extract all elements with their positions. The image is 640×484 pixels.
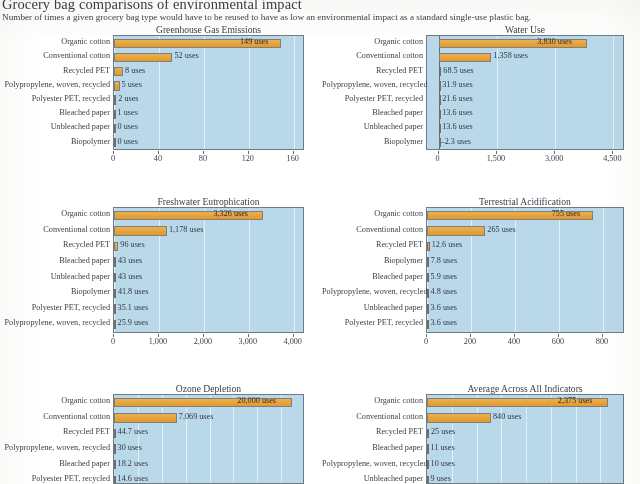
category-label: Bleached paper <box>2 460 110 468</box>
category-label: Bleached paper <box>322 444 423 452</box>
category-label: Polypropylene, woven, recycled <box>322 288 423 296</box>
bar-value-label: 68.5 uses <box>443 67 473 75</box>
bar-value-label: 52 uses <box>174 52 198 60</box>
bar-value-label: 755 uses <box>552 210 580 218</box>
category-label: Recycled PET <box>2 241 110 249</box>
gridline <box>294 208 295 332</box>
gridline <box>452 395 453 483</box>
plot-area <box>426 394 624 484</box>
category-label: Organic cotton <box>2 210 110 218</box>
bar <box>427 429 429 439</box>
page-subtitle: Number of times a given grocery bag type… <box>2 12 531 22</box>
axis-tick-label: 0 <box>111 337 115 346</box>
bar-value-label: 25 uses <box>431 428 455 436</box>
bar <box>114 304 116 314</box>
category-label: Conventional cotton <box>322 413 423 421</box>
bar <box>427 226 485 236</box>
axis-tick-label: 160 <box>287 154 299 163</box>
bar-value-label: 14.6 uses <box>118 475 148 483</box>
category-label: Unbleached paper <box>322 304 423 312</box>
gridline <box>204 208 205 332</box>
bar <box>114 95 116 105</box>
bar <box>114 110 116 120</box>
bar-value-label: 13.6 uses <box>442 109 472 117</box>
plot-area <box>113 35 304 150</box>
bar <box>114 257 116 267</box>
bar-value-label: 35.1 uses <box>118 304 148 312</box>
bar <box>427 304 429 314</box>
bar <box>439 67 442 77</box>
axis-tick-label: 400 <box>508 337 520 346</box>
gridline <box>600 395 601 483</box>
bar-value-label: 0 uses <box>118 123 138 131</box>
bar-value-label: 3.6 uses <box>431 304 457 312</box>
axis-tick-label: 40 <box>154 154 162 163</box>
axis-tick-label: 4,500 <box>603 154 621 163</box>
gridline <box>249 208 250 332</box>
bar-value-label: –2.3 uses <box>441 138 471 146</box>
bar-value-label: 43 uses <box>118 257 142 265</box>
bar-value-label: 8 uses <box>125 67 145 75</box>
bar <box>114 138 116 148</box>
plot-area <box>113 207 304 333</box>
axis-tick-label: 0 <box>436 154 440 163</box>
bar-value-label: 9 uses <box>431 475 451 483</box>
gridline <box>526 395 527 483</box>
bar-value-label: 265 uses <box>487 226 515 234</box>
category-label: Polyester PET, recycled <box>2 475 110 483</box>
bar-value-label: 3.6 uses <box>431 319 457 327</box>
bar <box>114 429 116 439</box>
chart-title: Terrestrial Acidification <box>366 196 640 207</box>
bar <box>114 460 116 470</box>
gridline <box>294 36 295 149</box>
category-label: Conventional cotton <box>2 413 110 421</box>
axis-tick-label: 600 <box>552 337 564 346</box>
category-label: Recycled PET <box>322 241 423 249</box>
category-label: Polypropylene, woven, recycled <box>2 444 110 452</box>
category-label: Organic cotton <box>2 38 110 46</box>
bar-value-label: 1 uses <box>118 109 138 117</box>
category-label: Conventional cotton <box>322 226 423 234</box>
gridline <box>576 395 577 483</box>
bar <box>114 124 116 134</box>
bar <box>114 413 177 423</box>
bar <box>114 67 123 77</box>
bar-value-label: 41.8 uses <box>118 288 148 296</box>
bar-value-label: 4.8 uses <box>431 288 457 296</box>
bar-value-label: 13.6 uses <box>442 123 472 131</box>
axis-tick-label: 3,000 <box>545 154 563 163</box>
bar <box>439 81 441 91</box>
axis-tick-label: 80 <box>199 154 207 163</box>
plot-area <box>113 394 304 484</box>
gridline <box>186 395 187 483</box>
bar-value-label: 3,830 uses <box>537 38 572 46</box>
category-label: Biopolymer <box>322 138 423 146</box>
chart-title: Water Use <box>366 24 640 35</box>
bar-value-label: 1,178 uses <box>169 226 204 234</box>
category-label: Polypropylene, woven, recycled <box>322 460 423 468</box>
category-label: Bleached paper <box>2 109 110 117</box>
bar-value-label: 44.7 uses <box>118 428 148 436</box>
bar <box>114 320 116 330</box>
bar-value-label: 96 uses <box>120 241 144 249</box>
bar <box>114 444 116 454</box>
gridline <box>210 395 211 483</box>
category-label: Bleached paper <box>2 257 110 265</box>
category-label: Unbleached paper <box>2 123 110 131</box>
axis-tick-label: 3,000 <box>239 337 257 346</box>
bar-value-label: 25.9 uses <box>118 319 148 327</box>
bar-value-label: 30 uses <box>118 444 142 452</box>
category-label: Polyester PET, recycled <box>2 95 110 103</box>
bar <box>427 413 491 423</box>
category-label: Bleached paper <box>322 109 423 117</box>
gridline <box>281 395 282 483</box>
gridline <box>477 395 478 483</box>
axis-tick-label: 1,000 <box>149 337 167 346</box>
gridline <box>138 395 139 483</box>
gridline <box>162 395 163 483</box>
bar <box>439 110 441 120</box>
bar-value-label: 840 uses <box>493 413 521 421</box>
bar <box>427 320 429 330</box>
bar-value-label: 10 uses <box>431 460 455 468</box>
gridline <box>501 395 502 483</box>
